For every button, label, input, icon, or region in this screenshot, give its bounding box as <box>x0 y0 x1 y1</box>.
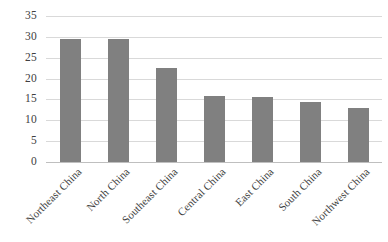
bars-layer <box>46 16 382 162</box>
y-axis-tick-label: 30 <box>25 31 37 43</box>
y-axis-tick-label: 15 <box>25 94 37 106</box>
x-axis-tick-label: Northwest China <box>286 166 372 242</box>
bar[interactable] <box>60 39 81 162</box>
bar[interactable] <box>348 108 369 162</box>
bar[interactable] <box>108 39 129 162</box>
y-axis-tick-label: 35 <box>25 10 37 22</box>
y-axis: 05101520253035 <box>0 16 42 162</box>
bar[interactable] <box>204 96 225 162</box>
y-axis-tick-label: 20 <box>25 73 37 85</box>
plot-area <box>46 16 382 162</box>
y-axis-tick-label: 0 <box>31 156 37 168</box>
y-axis-tick-label: 10 <box>25 115 37 127</box>
y-axis-tick-label: 5 <box>31 135 37 147</box>
y-axis-tick-label: 25 <box>25 52 37 64</box>
bar[interactable] <box>156 68 177 162</box>
bar[interactable] <box>300 102 321 162</box>
bar[interactable] <box>252 97 273 162</box>
bar-chart-figure: 05101520253035 Northeast ChinaNorth Chin… <box>0 0 388 242</box>
x-axis: Northeast ChinaNorth ChinaSoutheast Chin… <box>46 162 382 240</box>
